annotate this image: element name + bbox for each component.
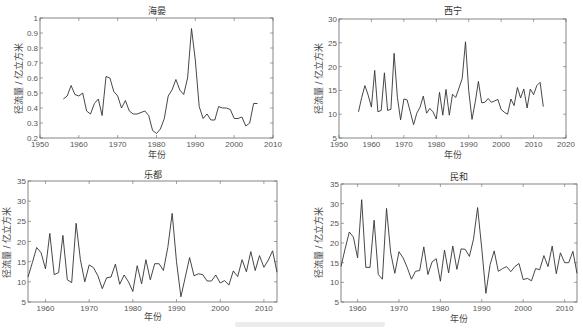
plot-area: 1960197019801990200020105101520253035 [0,160,290,320]
y-axis-label: 径流量 / 亿立方米 [12,29,25,129]
y-tick-label: 20 [328,63,337,72]
y-tick-label: 25 [328,39,337,48]
axes-box [28,181,277,302]
data-line [341,200,577,294]
y-tick-label: 25 [330,219,339,228]
plot-area: 1960197019801990200020105101520253035 [290,160,583,320]
y-axis-label: 径流量 / 亿立方米 [312,193,325,293]
y-axis-label: 径流量 / 亿立方米 [312,29,325,129]
y-tick-label: 0.3 [27,119,39,128]
y-tick-label: 5 [22,298,27,307]
y-tick-label: 35 [17,177,26,186]
y-tick-label: 0.9 [27,29,39,38]
y-tick-label: 0.6 [27,74,39,83]
figure-caption [235,322,385,327]
y-tick-label: 0.7 [27,59,39,68]
y-tick-label: 0.5 [27,89,39,98]
y-tick-label: 20 [17,238,26,247]
y-tick-label: 10 [17,278,26,287]
plot-area: 1950196019701980199020002010202051015202… [290,0,583,160]
axes-box [341,184,577,302]
axes-box [339,19,566,138]
y-tick-label: 0.4 [27,104,39,113]
chart-haiyan: 海晏 19501960197019801990200020100.20.30.4… [0,0,290,160]
y-tick-label: 20 [330,239,339,248]
y-tick-label: 1 [34,14,39,23]
y-tick-label: 0.8 [27,44,39,53]
y-tick-label: 35 [330,180,339,189]
y-tick-label: 30 [328,15,337,24]
y-tick-label: 0.2 [27,134,39,143]
y-tick-label: 10 [328,110,337,119]
plot-area: 19501960197019801990200020100.20.30.40.5… [0,0,290,160]
chart-xining: 西宁 1950196019701980199020002010202051015… [290,0,583,160]
y-tick-label: 25 [17,217,26,226]
y-tick-label: 15 [330,259,339,268]
data-line [359,42,544,125]
y-tick-label: 5 [335,298,340,307]
chart-ledu: 乐都 1960197019801990200020105101520253035… [0,160,290,320]
y-tick-label: 5 [333,134,338,143]
chart-minhe: 民和 1960197019801990200020105101520253035… [290,160,583,320]
y-axis-label: 径流量 / 亿立方米 [0,193,13,293]
y-tick-label: 10 [330,278,339,287]
data-line [63,29,257,134]
y-tick-label: 30 [17,197,26,206]
data-line [28,213,277,296]
y-tick-label: 15 [328,86,337,95]
y-tick-label: 30 [330,200,339,209]
y-tick-label: 15 [17,258,26,267]
axes-box [40,18,273,138]
